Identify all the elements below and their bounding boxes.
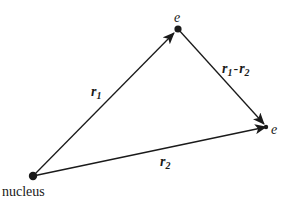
vector-r12-operator: - bbox=[233, 61, 238, 76]
vector-r1-minus-r2-arrow bbox=[178, 29, 264, 124]
vector-r2-label: r2 bbox=[160, 155, 170, 171]
diagram-canvas bbox=[0, 0, 289, 210]
vector-r2-arrow bbox=[33, 127, 266, 176]
vector-r12-subscript2: 2 bbox=[245, 67, 250, 78]
electron-2-dot-icon bbox=[264, 125, 268, 129]
vector-r1-label: r1 bbox=[91, 85, 101, 101]
vector-r1-arrow bbox=[33, 33, 174, 176]
nucleus-dot-icon bbox=[29, 172, 37, 180]
vector-r2-subscript: 2 bbox=[165, 160, 170, 171]
electron-nucleus-vector-diagram: e e nucleus r1 r2 r1-r2 bbox=[0, 0, 289, 210]
electron-2-label: e bbox=[271, 123, 277, 137]
vector-r1-minus-r2-label: r1-r2 bbox=[222, 62, 250, 78]
electron-1-dot-icon bbox=[174, 25, 181, 32]
electron-1-label: e bbox=[174, 11, 180, 25]
vector-r1-subscript: 1 bbox=[96, 90, 101, 101]
vector-r12-subscript1: 1 bbox=[227, 67, 232, 78]
nucleus-label: nucleus bbox=[2, 185, 45, 199]
